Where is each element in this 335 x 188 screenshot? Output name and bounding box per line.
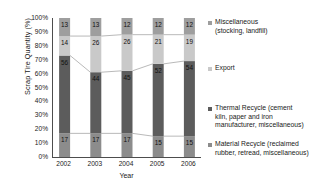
legend-entry-3: Material Recycle (reclaimed rubber, retr… <box>208 140 334 157</box>
legend-label: Miscellaneous (stocking, landfill) <box>215 18 268 35</box>
bar-value-label: 52 <box>155 67 163 74</box>
y-axis-tick-100%: 100% <box>16 15 48 22</box>
legend-swatch-icon <box>208 21 212 25</box>
x-axis-tick-labels: 20022003200420052006 <box>52 160 201 172</box>
connector-line <box>133 64 153 71</box>
x-axis-tick-2003: 2003 <box>87 160 102 168</box>
y-axis-tick-50%: 50% <box>16 84 48 91</box>
x-axis-tick-2004: 2004 <box>119 160 134 168</box>
stacked-bars-svg: 1756141317442613174526121552211215541912 <box>53 18 201 157</box>
bar-value-label: 17 <box>92 136 100 143</box>
bar-value-label: 44 <box>92 75 100 82</box>
y-axis-tick-80%: 80% <box>16 43 48 50</box>
x-axis-tick-2006: 2006 <box>181 160 196 168</box>
connector-line <box>101 71 121 72</box>
connector-line <box>70 56 90 73</box>
bar-value-label: 54 <box>186 64 194 71</box>
connector-line <box>101 35 121 36</box>
bar-segment-2006-thermal-recycle <box>184 61 195 136</box>
legend-entry-2: Thermal Recycle (cement kiln, paper and … <box>208 104 334 130</box>
bar-value-label: 13 <box>61 21 69 28</box>
y-axis-tick-labels: 0%10%20%30%40%50%60%70%80%90%100% <box>16 18 48 157</box>
bar-value-label: 19 <box>186 38 194 45</box>
scrap-tire-stacked-bar-chart: Scrap Tire Quantity (%) 0%10%20%30%40%50… <box>0 0 335 188</box>
connector-line <box>164 61 184 64</box>
legend-label: Material Recycle (reclaimed rubber, retr… <box>215 140 309 157</box>
connector-line <box>133 133 153 136</box>
legend-label: Export <box>215 64 235 73</box>
bar-value-label: 12 <box>186 21 194 28</box>
y-axis-tick-60%: 60% <box>16 70 48 77</box>
bar-value-label: 14 <box>61 39 69 46</box>
bar-value-label: 12 <box>123 21 131 28</box>
bar-value-label: 12 <box>155 21 163 28</box>
x-axis-tick-2002: 2002 <box>56 160 71 168</box>
bar-value-label: 17 <box>61 136 69 143</box>
y-axis-tick-70%: 70% <box>16 56 48 63</box>
bar-value-label: 21 <box>155 38 163 45</box>
bar-value-label: 15 <box>186 139 194 146</box>
plot-area: 1756141317442613174526121552211215541912 <box>52 18 201 158</box>
x-axis-title: Year <box>52 172 201 179</box>
y-axis-tick-0%: 0% <box>16 154 48 161</box>
bar-value-label: 26 <box>92 39 100 46</box>
y-axis-tick-90%: 90% <box>16 29 48 36</box>
legend-entry-0: Miscellaneous (stocking, landfill) <box>208 18 334 35</box>
bar-value-label: 56 <box>61 59 69 66</box>
bar-value-label: 26 <box>123 38 131 45</box>
bar-value-label: 45 <box>123 74 131 81</box>
legend-label: Thermal Recycle (cement kiln, paper and … <box>215 104 304 130</box>
bar-segment-2002-thermal-recycle <box>59 56 70 134</box>
chart-legend: Miscellaneous (stocking, landfill)Export… <box>208 14 334 159</box>
y-axis-tick-40%: 40% <box>16 98 48 105</box>
legend-entry-1: Export <box>208 64 334 73</box>
bar-value-label: 15 <box>155 139 163 146</box>
legend-swatch-icon <box>208 143 212 147</box>
bar-segment-2005-thermal-recycle <box>153 64 164 136</box>
y-axis-tick-30%: 30% <box>16 112 48 119</box>
y-axis-tick-10%: 10% <box>16 140 48 147</box>
bar-value-label: 17 <box>123 136 131 143</box>
bar-value-label: 13 <box>92 21 100 28</box>
x-axis-tick-2005: 2005 <box>150 160 165 168</box>
legend-swatch-icon <box>208 67 212 71</box>
legend-swatch-icon <box>208 107 212 111</box>
y-axis-tick-20%: 20% <box>16 126 48 133</box>
